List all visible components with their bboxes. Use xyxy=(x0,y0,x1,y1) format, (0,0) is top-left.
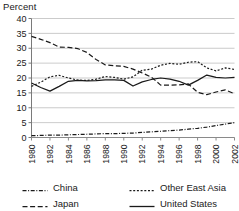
legend-label: United States xyxy=(160,198,217,209)
svg-text:1982: 1982 xyxy=(45,144,55,163)
svg-text:2000: 2000 xyxy=(211,144,221,163)
legend-item-china[interactable]: China xyxy=(22,180,78,195)
svg-text:1980: 1980 xyxy=(27,144,37,163)
svg-text:15: 15 xyxy=(16,88,26,98)
svg-text:30: 30 xyxy=(16,43,26,53)
legend-item-united-states[interactable]: United States xyxy=(129,196,217,211)
svg-text:1986: 1986 xyxy=(82,144,92,163)
x-tick-labels: 1980198219841986198819901992199419961998… xyxy=(27,144,239,163)
svg-text:1998: 1998 xyxy=(193,144,203,163)
svg-text:1988: 1988 xyxy=(101,144,111,163)
chart-legend: ChinaOther East AsiaJapanUnited States xyxy=(0,180,239,211)
svg-text:1994: 1994 xyxy=(156,144,166,163)
svg-text:35: 35 xyxy=(16,29,26,39)
data-series-group xyxy=(32,36,235,135)
line-chart: Percent 0510152025303540 198019821984198… xyxy=(0,0,239,211)
solid-swatch xyxy=(129,198,155,209)
dashed-swatch xyxy=(22,198,48,209)
gridlines xyxy=(32,19,235,138)
svg-text:2002: 2002 xyxy=(230,144,239,163)
legend-label: Other East Asia xyxy=(160,182,226,193)
svg-text:10: 10 xyxy=(16,103,26,113)
plot-area: 0510152025303540 19801982198419861988199… xyxy=(0,0,239,180)
y-tick-labels: 0510152025303540 xyxy=(16,14,26,143)
svg-text:40: 40 xyxy=(16,14,26,24)
series-line-united-states xyxy=(32,75,235,91)
dotted-swatch xyxy=(129,182,155,193)
svg-text:20: 20 xyxy=(16,73,26,83)
legend-label: Japan xyxy=(53,198,79,209)
legend-item-other-east-asia[interactable]: Other East Asia xyxy=(129,180,226,195)
svg-text:1996: 1996 xyxy=(174,144,184,163)
svg-text:0: 0 xyxy=(21,133,26,143)
dash-dot-swatch xyxy=(22,182,48,193)
legend-item-japan[interactable]: Japan xyxy=(22,196,79,211)
series-line-other-east-asia xyxy=(32,62,235,87)
legend-label: China xyxy=(53,182,78,193)
svg-text:1984: 1984 xyxy=(64,144,74,163)
svg-text:1990: 1990 xyxy=(119,144,129,163)
svg-text:5: 5 xyxy=(21,118,26,128)
series-line-china xyxy=(32,123,235,136)
svg-text:25: 25 xyxy=(16,58,26,68)
svg-text:1992: 1992 xyxy=(137,144,147,163)
